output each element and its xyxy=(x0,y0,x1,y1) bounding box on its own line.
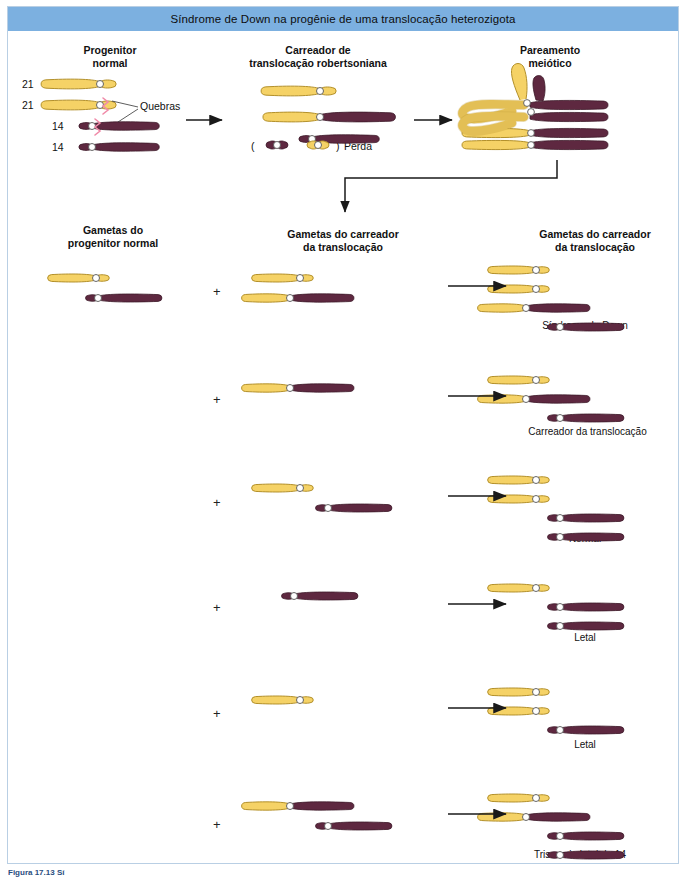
outcome-row-1: Síndrome de Down xyxy=(490,320,680,331)
plus-row-4: + xyxy=(213,600,221,615)
outcome-row-2: Carreador da translocação xyxy=(490,426,685,437)
loss-label: Perda xyxy=(344,140,372,152)
heading-carrier: Carreador de translocação robertsoniana xyxy=(218,44,418,69)
outcome-row-4: Letal xyxy=(490,632,680,643)
chr-label-14-a: 14 xyxy=(52,120,64,132)
plus-row-3: + xyxy=(213,495,221,510)
heading-gametes-normal: Gametas do progenitor normal xyxy=(28,224,198,249)
heading-gametes-carrier-1: Gametas do carreador da translocação xyxy=(248,228,438,253)
quebras-annotation: Quebras xyxy=(140,100,180,112)
plus-row-6: + xyxy=(213,817,221,832)
chr-label-21-a: 21 xyxy=(22,78,34,90)
plus-row-2: + xyxy=(213,392,221,407)
plus-row-5: + xyxy=(213,706,221,721)
chr-label-21-b: 21 xyxy=(22,99,34,111)
figure-title: Síndrome de Down na progênie de uma tran… xyxy=(171,13,516,25)
loss-open-paren: ( xyxy=(251,140,255,152)
outcome-row-5: Letal xyxy=(490,739,680,750)
heading-progenitor: Progenitor normal xyxy=(30,44,190,69)
heading-pairing: Pareamento meiótico xyxy=(470,44,630,69)
loss-close-paren: ) xyxy=(336,140,340,152)
outcome-row-6: Trissomia letal do 14 xyxy=(480,849,680,860)
plus-row-1: + xyxy=(213,284,221,299)
chr-label-14-b: 14 xyxy=(52,141,64,153)
figure-caption: Figura 17.13 Sí xyxy=(8,868,428,879)
heading-gametes-carrier-2: Gametas do carreador da translocação xyxy=(505,228,685,253)
outcome-row-3: Normal xyxy=(490,533,680,544)
figure-title-bar: Síndrome de Down na progênie de uma tran… xyxy=(8,7,678,31)
